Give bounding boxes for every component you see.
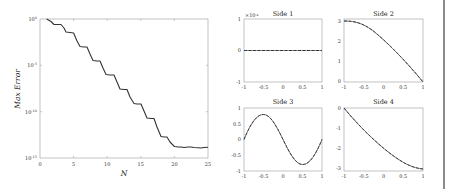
side2-plot: Side 2 3 2 1 0 -1 -0.5 0 0.5 1 [338, 10, 425, 90]
side4-plot: Side 4 0 -1 -2 -3 -1 -0.5 0 0.5 1 [336, 98, 424, 179]
main-xtick-0: 0 [38, 161, 41, 167]
main-ytick-1e-10: 10-10 [25, 109, 37, 115]
side2-ytick: 3 [338, 18, 341, 24]
main-xtick-15: 15 [138, 161, 144, 167]
side4-ytick: -3 [336, 165, 341, 171]
svg-text:0.5: 0.5 [299, 84, 307, 90]
side1-ytick: -1 [236, 79, 241, 85]
svg-text:-0.5: -0.5 [359, 173, 369, 179]
svg-text:0.5: 0.5 [299, 173, 307, 179]
side1-title: Side 1 [273, 10, 294, 18]
svg-text:-1: -1 [342, 173, 347, 179]
side4-ytick: -2 [336, 145, 341, 151]
side3-ytick: -1 [236, 168, 241, 174]
svg-text:-1: -1 [242, 173, 247, 179]
side1-xticks: -1 -0.5 0 0.5 1 [242, 84, 324, 90]
figure: 0 5 10 15 20 25 100 10-5 10-10 10-15 N M… [0, 0, 453, 189]
side1-multiplier: ×10-4 [245, 12, 259, 18]
side1-ytick: 1 [238, 16, 241, 22]
side2-ytick: 2 [338, 38, 341, 44]
main-ytick-1e0: 100 [28, 16, 37, 22]
side2-frame [344, 19, 423, 82]
svg-text:1: 1 [320, 84, 323, 90]
side3-ytick: 1 [238, 105, 241, 111]
svg-text:1: 1 [320, 173, 323, 179]
svg-text:1: 1 [421, 84, 424, 90]
side4-xticks: -1 -0.5 0 0.5 1 [342, 173, 425, 179]
svg-text:-0.5: -0.5 [359, 84, 369, 90]
svg-text:0.5: 0.5 [399, 173, 407, 179]
side3-title: Side 3 [273, 98, 294, 106]
main-error-plot: 0 5 10 15 20 25 100 10-5 10-10 10-15 N M… [13, 16, 211, 178]
side3-ytick: -0.5 [231, 152, 241, 158]
svg-text:-1: -1 [242, 84, 247, 90]
main-plot-frame [40, 19, 208, 158]
main-xtick-10: 10 [104, 161, 110, 167]
side2-title: Side 2 [373, 10, 394, 18]
side3-plot: Side 3 1 0.5 0 -0.5 -1 -1 -0.5 0 0.5 1 [231, 98, 323, 179]
side2-ytick: 1 [338, 58, 341, 64]
side3-ytick: 0 [238, 136, 241, 142]
main-xtick-25: 25 [205, 161, 211, 167]
side2-ytick: 0 [338, 78, 341, 84]
side4-ytick: -1 [336, 125, 341, 131]
svg-text:-0.5: -0.5 [259, 173, 269, 179]
svg-text:0: 0 [281, 84, 284, 90]
side4-title: Side 4 [373, 98, 394, 106]
main-ytick-1e-15: 10-15 [25, 155, 37, 161]
svg-text:-0.5: -0.5 [259, 84, 269, 90]
main-xtick-20: 20 [171, 161, 177, 167]
svg-text:0: 0 [382, 84, 385, 90]
side1-plot: Side 1 ×10-4 1 0 -1 -1 -0.5 0 0.5 1 [236, 10, 323, 90]
main-ytick-1e-5: 10-5 [27, 62, 37, 68]
main-xtick-5: 5 [72, 161, 75, 167]
svg-text:0.5: 0.5 [399, 84, 407, 90]
main-xlabel: N [120, 169, 128, 178]
svg-text:1: 1 [421, 173, 424, 179]
side4-frame [344, 108, 423, 171]
side3-xticks: -1 -0.5 0 0.5 1 [242, 173, 324, 179]
svg-text:0: 0 [382, 173, 385, 179]
side2-xticks: -1 -0.5 0 0.5 1 [342, 84, 425, 90]
main-ylabel: Max Error [13, 69, 22, 110]
side1-ytick: 0 [238, 47, 241, 53]
svg-text:0: 0 [281, 173, 284, 179]
vertical-divider [443, 0, 445, 189]
side3-ytick: 0.5 [233, 121, 241, 127]
svg-text:-1: -1 [342, 84, 347, 90]
side4-ytick: 0 [338, 105, 341, 111]
